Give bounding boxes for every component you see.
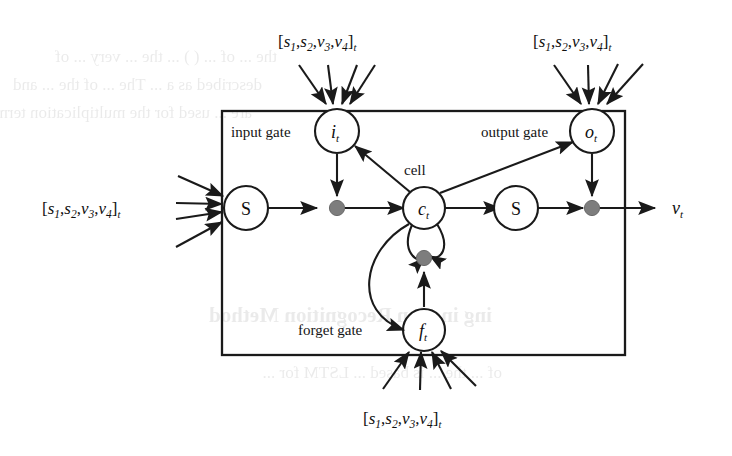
input-arrow-c4 [176,222,222,247]
input-arrow-b4 [607,64,643,104]
edge-cell-to-inputgate [355,146,410,192]
input-arrow-b2 [588,65,589,104]
input-vector-top-right: [s1,s2,v3,v4]t [533,32,612,53]
cell-self-loop-right [430,224,444,257]
input-gate-node [315,109,359,153]
edge-cell-to-forgetgate [369,224,409,330]
figure-canvas: the ... of ... ( ) ... the ... very ... … [0,0,732,456]
input-arrow-d1 [383,352,409,389]
input-vector-top-left: [s1,s2,v3,v4]t [278,32,357,53]
multiplication-dots [329,200,599,265]
output-gate-label: output gate [481,124,548,140]
input-vector-left: [s1,s2,v3,v4]t [42,199,121,220]
output-multiply-dot [584,200,599,215]
input-arrow-b3 [598,64,618,104]
input-arrow-a2 [328,65,333,104]
input-gate-label: input gate [231,124,291,140]
cell-label: cell [404,162,426,178]
output-signal-label: vt [672,198,684,220]
input-arrow-c2 [176,203,222,204]
input-arrow-b1 [554,65,581,104]
gate-text-labels: input gate output gate forget gate cell [231,124,548,338]
input-multiply-dot [329,200,344,215]
input-arrow-c3 [176,212,222,219]
input-arrow-a1 [299,65,326,104]
squash-in-label: S [241,199,251,219]
squash-out-label: S [511,199,521,219]
forget-gate-label: forget gate [298,322,363,338]
recurrent-multiply-dot [416,250,431,265]
lstm-diagram: S S ct it ot ft input gate output gate f… [0,0,732,456]
input-arrow-d2 [420,352,421,390]
input-arrow-c1 [178,176,223,196]
edge-cell-to-outputgate [440,142,573,193]
input-vector-labels: [s1,s2,v3,v4]t [s1,s2,v3,v4]t [s1,s2,v3,… [42,32,612,430]
input-vector-bottom: [s1,s2,v3,v4]t [363,409,442,430]
